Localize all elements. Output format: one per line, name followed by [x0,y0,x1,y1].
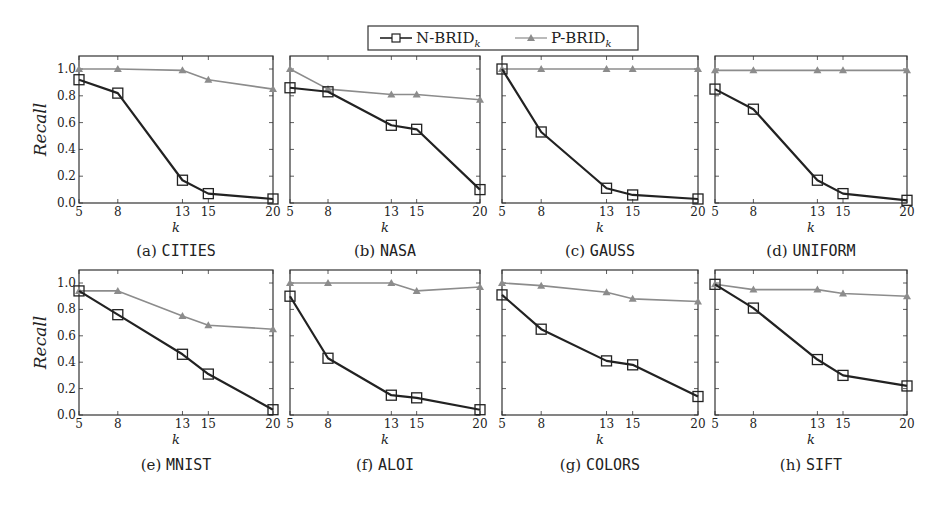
panel-nasa: 58131520k(b) NASA [285,56,488,260]
square-marker-icon [392,34,400,42]
x-tick-label: 5 [286,205,294,219]
x-tick-label: 20 [265,205,280,219]
y-tick-label: 0.4 [57,142,76,156]
x-tick-label: 8 [750,417,758,431]
x-tick-label: 8 [114,417,122,431]
x-tick-label: 20 [690,417,705,431]
y-tick-label: 0.8 [57,89,76,103]
y-tick-label: 1.0 [57,276,76,290]
panels: 0.00.20.40.60.81.058131520kRecall(a) CIT… [30,56,915,474]
panel-caption: (b) NASA [354,242,416,260]
y-tick-label: 0.8 [57,302,76,316]
panel-cities: 0.00.20.40.60.81.058131520kRecall(a) CIT… [30,56,281,260]
plot-frame [715,270,907,415]
x-tick-label: 15 [409,417,424,431]
x-tick-label: 13 [175,205,190,219]
panel-caption: (a) CITIES [136,242,216,260]
x-tick-label: 20 [472,417,487,431]
x-tick-label: 15 [625,205,640,219]
x-tick-label: 8 [324,417,332,431]
series-line-n-brid [79,291,273,410]
x-tick-label: 13 [599,417,614,431]
series-line-p-brid [79,291,273,329]
x-tick-label: 20 [265,417,280,431]
x-tick-label: 5 [498,417,506,431]
x-tick-label: 5 [711,417,719,431]
x-tick-label: 5 [711,205,719,219]
x-tick-label: 20 [472,205,487,219]
x-tick-label: 8 [114,205,122,219]
panel-gauss: 58131520k(c) GAUSS [497,56,706,260]
x-tick-label: 15 [835,417,850,431]
series-line-n-brid [290,296,480,410]
x-tick-label: 13 [384,417,399,431]
series-line-n-brid [715,284,907,386]
series-line-p-brid [79,69,273,89]
series-line-n-brid [502,295,698,397]
plot-frame [79,56,273,203]
plot-frame [290,56,480,203]
y-tick-label: 0.0 [57,196,76,210]
x-tick-label: 15 [409,205,424,219]
plot-frame [502,56,698,203]
y-axis-label: Recall [30,103,50,157]
x-tick-label: 20 [690,205,705,219]
panel-sift: 58131520k(h) SIFT [710,270,915,474]
x-tick-label: 13 [810,205,825,219]
series-line-n-brid [502,69,698,199]
panel-caption: (f) ALOI [356,456,414,474]
x-tick-label: 5 [286,417,294,431]
y-tick-label: 0.2 [57,169,76,183]
x-tick-label: 13 [599,205,614,219]
series-line-p-brid [290,69,480,100]
x-tick-label: 8 [324,205,332,219]
x-tick-label: 15 [835,205,850,219]
x-tick-label: 5 [498,205,506,219]
x-tick-label: 15 [201,205,216,219]
y-tick-label: 0.6 [57,116,76,130]
legend: N-BRIDkP-BRIDk [368,26,638,50]
panel-uniform: 58131520k(d) UNIFORM [710,56,915,260]
x-tick-label: 5 [75,417,83,431]
figure: N-BRIDkP-BRIDk 0.00.20.40.60.81.05813152… [0,0,946,507]
y-axis-label: Recall [30,316,50,370]
panel-caption: (g) COLORS [560,456,640,474]
x-tick-label: 5 [75,205,83,219]
x-tick-label: 8 [537,205,545,219]
x-tick-label: 20 [899,205,914,219]
panel-caption: (h) SIFT [780,456,842,474]
x-tick-label: 8 [750,205,758,219]
x-tick-label: 13 [175,417,190,431]
x-tick-label: 13 [810,417,825,431]
x-axis-label: k [381,432,389,447]
panel-colors: 58131520k(g) COLORS [497,270,706,474]
x-axis-label: k [172,432,180,447]
plot-frame [715,56,907,203]
x-axis-label: k [807,220,815,235]
series-line-p-brid [290,283,480,291]
panel-caption: (d) UNIFORM [766,242,855,260]
panel-caption: (e) MNIST [141,456,212,474]
series-line-n-brid [79,80,273,199]
triangle-marker-icon [286,65,294,72]
y-tick-label: 0.4 [57,355,76,369]
x-axis-label: k [596,432,604,447]
series-line-n-brid [715,89,907,200]
series-line-p-brid [715,284,907,296]
x-axis-label: k [381,220,389,235]
svg-text:N-BRIDk: N-BRIDk [416,29,481,49]
x-axis-label: k [807,432,815,447]
x-axis-label: k [596,220,604,235]
x-tick-label: 15 [625,417,640,431]
x-tick-label: 13 [384,205,399,219]
y-tick-label: 1.0 [57,62,76,76]
y-tick-label: 0.6 [57,329,76,343]
panel-caption: (c) GAUSS [565,242,635,260]
series-line-n-brid [290,88,480,190]
svg-text:P-BRIDk: P-BRIDk [551,29,612,49]
y-tick-label: 0.0 [57,408,76,422]
x-tick-label: 15 [201,417,216,431]
y-tick-label: 0.2 [57,382,76,396]
x-axis-label: k [172,220,180,235]
x-tick-label: 8 [537,417,545,431]
